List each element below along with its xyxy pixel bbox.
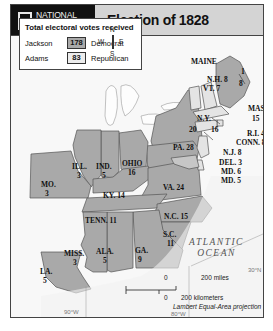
state-votes-ala: 5	[103, 257, 107, 265]
state-label-nj: N.J. 8	[223, 149, 242, 157]
latitude-30n: 30°N	[248, 267, 261, 273]
state-label-mass: MASS.	[248, 105, 264, 113]
scale-km-zero: 0	[164, 294, 168, 301]
state-votes-la: 5	[43, 277, 47, 285]
state-label-nh: N.H. 8	[207, 76, 228, 84]
state-votes-ny-2: 16	[211, 126, 219, 134]
state-label-tenn: TENN. 11	[85, 217, 117, 225]
compass-n: N	[110, 26, 115, 33]
state-votes-mo: 3	[45, 190, 49, 198]
state-votes-maine-1: 1	[241, 68, 245, 76]
scale-miles: 200 miles	[201, 274, 229, 281]
state-votes-ill: 3	[77, 172, 81, 180]
compass-w: W	[98, 38, 104, 45]
state-label-conn: CONN. 8	[236, 139, 264, 147]
state-label-md-5: MD. 5	[221, 177, 241, 185]
state-label-ri: R.I. 4	[247, 130, 264, 138]
vote-count-badge: 178	[67, 37, 86, 49]
state-label-la: LA.	[40, 268, 52, 276]
state-votes-miss: 3	[73, 259, 77, 267]
state-label-ala: ALA.	[96, 248, 114, 256]
state-label-ny: N.Y.	[197, 115, 211, 123]
state-label-miss: MISS.	[64, 250, 84, 258]
state-label-ohio: OHIO	[122, 160, 142, 168]
state-votes-ohio: 16	[128, 169, 136, 177]
compass-e: E	[119, 38, 123, 45]
vote-count-badge: 83	[67, 52, 86, 64]
state-votes-maine-2: 8	[239, 80, 243, 88]
state-votes-mass: 15	[252, 115, 260, 123]
state-label-md-6: MD. 6	[221, 168, 241, 176]
longitude-90w: 90°W	[64, 309, 79, 315]
map-frame: NATIONAL GEOGRAPHIC Election of 1828	[10, 4, 264, 318]
state-label-pa: PA. 28	[173, 144, 194, 152]
ocean-label: ATLANTIC OCEAN	[189, 237, 244, 259]
scale-miles-zero: 0	[164, 274, 168, 281]
candidate-name: Jackson	[25, 39, 65, 48]
scale-km: 200 kilometers	[181, 294, 223, 301]
state-label-ga: GA.	[135, 247, 148, 255]
state-votes-sc: 11	[167, 240, 174, 248]
compass-s: S	[110, 50, 114, 57]
state-label-del: DEL. 3	[219, 159, 242, 167]
state-label-maine: MAINE	[191, 58, 217, 66]
state-label-mo: MO.	[41, 181, 56, 189]
state-label-sc: S.C.	[163, 231, 176, 239]
state-label-ill: ILL.	[72, 163, 87, 171]
candidate-name: Adams	[25, 54, 65, 63]
legend-title: Total electoral votes received	[25, 23, 134, 32]
state-label-ind: IND.	[96, 163, 112, 171]
legend-box: Total electoral votes received Jackson 1…	[19, 18, 142, 70]
longitude-80w: 80°W	[171, 311, 186, 317]
state-label-vt: VT. 7	[203, 85, 220, 93]
state-label-va: VA. 24	[163, 184, 184, 192]
state-label-nc: N.C. 15	[164, 213, 188, 221]
compass-rose-icon	[112, 35, 114, 49]
projection-note: Lambert Equal-Area projection	[173, 303, 261, 310]
state-label-ky: KY. 14	[103, 192, 125, 200]
state-votes-ny-1: 20	[189, 126, 197, 134]
state-votes-ind: 5	[102, 172, 106, 180]
state-votes-ga: 9	[138, 256, 142, 264]
